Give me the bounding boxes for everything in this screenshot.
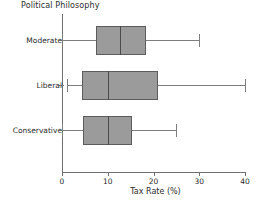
x-tick-label-40: 40 [240,177,250,186]
x-axis-label-text: Tax Rate (%) [130,187,180,196]
median-line [108,71,109,100]
whisker-cap-low [62,34,63,47]
y-tick-liberal [59,85,64,86]
chart-title: Political Philosophy [21,1,99,10]
median-line [120,26,121,55]
median-line [108,116,109,145]
box-plot-chart: Political Philosophy 010203040 ModerateL… [0,0,263,200]
x-tick-20 [154,172,155,176]
whisker-line-high [158,85,245,86]
x-tick-label-30: 30 [194,177,204,186]
whisker-line-high [146,40,200,41]
whisker-line-low [62,130,83,131]
box-iqr [96,26,145,55]
whisker-line-low [67,85,83,86]
x-tick-40 [245,172,246,176]
y-category-label-conservative: Conservative [13,126,62,135]
whisker-cap-high [176,124,177,137]
x-tick-label-0: 0 [60,177,65,186]
box-iqr [82,71,158,100]
whisker-line-high [132,130,176,131]
whisker-cap-high [199,34,200,47]
y-category-label-moderate: Moderate [26,36,62,45]
x-tick-30 [199,172,200,176]
x-tick-10 [108,172,109,176]
x-tick-label-20: 20 [149,177,159,186]
x-axis-label: Tax Rate (%) [0,187,263,196]
x-tick-label-10: 10 [103,177,113,186]
whisker-line-low [62,40,96,41]
whisker-cap-low [62,124,63,137]
x-tick-0 [62,172,63,176]
whisker-cap-high [245,79,246,92]
whisker-cap-low [67,79,68,92]
